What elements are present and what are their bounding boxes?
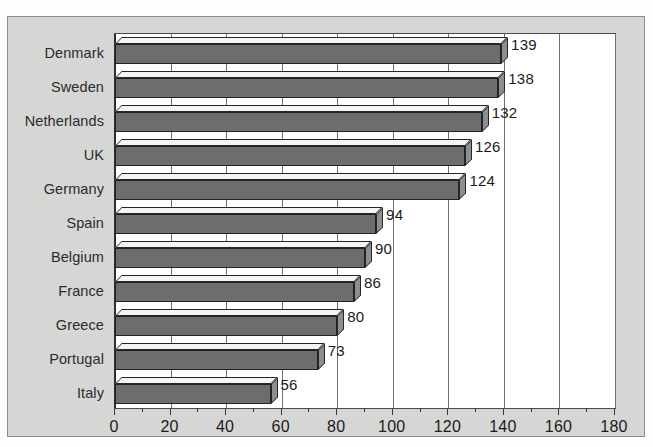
bar-side-face — [318, 343, 325, 370]
x-axis-tick-label: 180 — [600, 418, 627, 435]
scanned-page-background: 020406080100120140160180 DenmarkSwedenNe… — [0, 0, 653, 447]
bar-value-label: 73 — [328, 343, 345, 358]
bar-top-face — [115, 37, 508, 44]
bar-value-label: 94 — [386, 207, 403, 222]
tick-mark — [558, 408, 559, 415]
cropped-header-text — [46, 1, 346, 8]
x-axis-tick-label: 100 — [378, 418, 405, 435]
category-label: France — [58, 284, 104, 299]
x-axis-tick-label: 40 — [216, 418, 234, 435]
category-label: Italy — [77, 386, 104, 401]
tick-mark — [614, 408, 615, 415]
category-label: Belgium — [51, 250, 104, 265]
tick-mark — [114, 408, 115, 415]
tick-mark — [503, 408, 504, 415]
bar-top-face — [115, 139, 472, 146]
tick-mark-minor — [364, 408, 365, 412]
tick-mark-minor — [308, 408, 309, 412]
tick-mark-minor — [531, 408, 532, 412]
gridline — [615, 34, 616, 408]
tick-mark — [336, 408, 337, 415]
tick-mark-minor — [475, 408, 476, 412]
bar-value-label: 124 — [469, 173, 495, 188]
bar-value-label: 90 — [375, 241, 392, 256]
bar-value-label: 132 — [492, 105, 518, 120]
tick-mark-minor — [586, 408, 587, 412]
category-label: Sweden — [51, 80, 104, 95]
bar-top-face — [115, 275, 361, 282]
x-axis-tick-label: 140 — [489, 418, 516, 435]
bar-top-face — [115, 173, 466, 180]
bar-side-face — [465, 139, 472, 166]
bar-value-label: 86 — [364, 275, 381, 290]
category-label: Portugal — [49, 352, 104, 367]
bar-top-face — [115, 71, 505, 78]
bar-front-face — [115, 316, 337, 336]
bar-front-face — [115, 146, 465, 166]
tick-mark — [225, 408, 226, 415]
bar-front-face — [115, 384, 271, 404]
bar-front-face — [115, 44, 501, 64]
x-axis-tick-label: 120 — [434, 418, 461, 435]
bar-front-face — [115, 180, 459, 200]
bar-value-label: 126 — [475, 139, 501, 154]
bar-front-face — [115, 350, 318, 370]
tick-mark-minor — [142, 408, 143, 412]
x-axis-tick-label: 60 — [272, 418, 290, 435]
bar-side-face — [365, 241, 372, 268]
tick-mark-minor — [253, 408, 254, 412]
bar-front-face — [115, 112, 482, 132]
tick-mark — [392, 408, 393, 415]
bar-value-label: 56 — [281, 377, 298, 392]
x-axis-tick-label: 160 — [545, 418, 572, 435]
bar-value-label: 139 — [511, 37, 537, 52]
bar-top-face — [115, 207, 383, 214]
bar-top-face — [115, 309, 344, 316]
category-label: UK — [84, 148, 104, 163]
tick-mark-minor — [420, 408, 421, 412]
x-axis-tick-label: 80 — [327, 418, 345, 435]
x-axis-tick-label: 20 — [160, 418, 178, 435]
bar-top-face — [115, 241, 372, 248]
category-label: Netherlands — [25, 114, 104, 129]
bar-value-label: 138 — [508, 71, 534, 86]
tick-mark — [281, 408, 282, 415]
tick-mark — [170, 408, 171, 415]
bar-side-face — [354, 275, 361, 302]
bar-side-face — [337, 309, 344, 336]
bar-value-label: 80 — [347, 309, 364, 324]
bar-top-face — [115, 377, 277, 384]
chart-figure-frame: 020406080100120140160180 DenmarkSwedenNe… — [7, 16, 645, 437]
x-axis-tick-label: 0 — [109, 418, 118, 435]
bar-top-face — [115, 105, 488, 112]
bar-front-face — [115, 248, 365, 268]
gridline — [559, 34, 560, 408]
category-label: Greece — [56, 318, 104, 333]
bar-top-face — [115, 343, 325, 350]
category-label: Denmark — [44, 46, 104, 61]
category-label: Spain — [66, 216, 104, 231]
bar-side-face — [459, 173, 466, 200]
bar-side-face — [376, 207, 383, 234]
bar-front-face — [115, 282, 354, 302]
bar-side-face — [501, 37, 508, 64]
bar-front-face — [115, 78, 498, 98]
tick-mark — [447, 408, 448, 415]
bar-front-face — [115, 214, 376, 234]
chart-plot-area — [114, 33, 616, 409]
category-label: Germany — [44, 182, 104, 197]
tick-mark-minor — [197, 408, 198, 412]
